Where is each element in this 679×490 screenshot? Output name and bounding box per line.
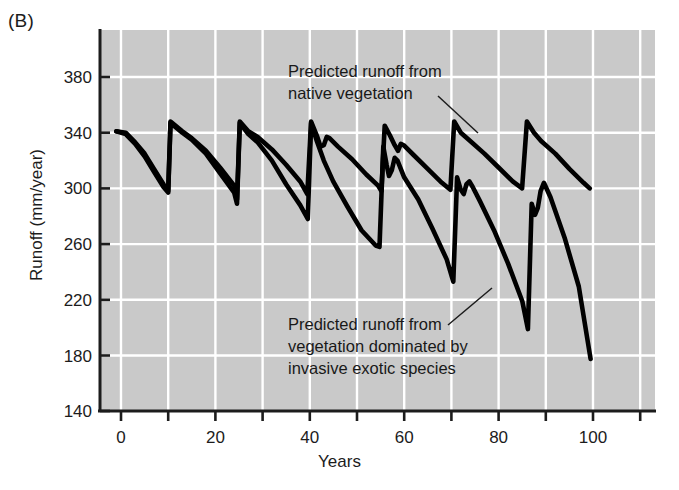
y-tick-label: 300 [64, 179, 92, 198]
y-tick-label: 180 [64, 347, 92, 366]
x-tick-label: 80 [489, 428, 508, 447]
y-tick-labels: 140 180 220 260 300 340 380 [64, 68, 92, 421]
annotation-invasive-line3: invasive exotic species [288, 359, 456, 377]
y-tick-label: 140 [64, 402, 92, 421]
x-tick-label: 0 [116, 428, 125, 447]
annotation-invasive-line1: Predicted runoff from [288, 315, 442, 333]
x-tick-label: 40 [300, 428, 319, 447]
annotation-native-line1: Predicted runoff from [288, 62, 442, 80]
annotation-invasive-line2: vegetation dominated by [288, 337, 469, 355]
y-tick-label: 260 [64, 235, 92, 254]
y-tick-label: 340 [64, 124, 92, 143]
y-tick-label: 380 [64, 68, 92, 87]
x-tick-label: 100 [579, 428, 607, 447]
annotation-native-line2: native vegetation [288, 84, 413, 102]
y-tick-label: 220 [64, 291, 92, 310]
figure-panel-b: (B) Runoff (mm/year) Years [0, 0, 679, 490]
x-tick-label: 60 [395, 428, 414, 447]
x-tick-labels: 0 20 40 60 80 100 [116, 428, 607, 447]
chart-svg: 140 180 220 260 300 340 380 0 20 [0, 0, 679, 490]
x-tick-label: 20 [206, 428, 225, 447]
